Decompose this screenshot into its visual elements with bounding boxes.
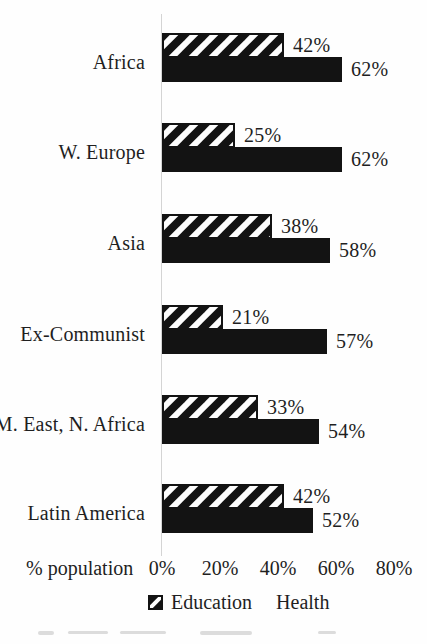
diagonal-hatch-fill bbox=[164, 397, 256, 418]
cut-off-caption-remnant bbox=[38, 631, 336, 635]
education-bar bbox=[162, 214, 272, 239]
diagonal-hatch-fill bbox=[164, 125, 233, 146]
education-bar bbox=[162, 123, 235, 148]
health-bar bbox=[162, 329, 327, 354]
education-value-label: 25% bbox=[244, 123, 281, 148]
x-tick-label: 40% bbox=[260, 556, 297, 580]
health-bar-line: 54% bbox=[162, 419, 365, 444]
education-bar-line: 38% bbox=[162, 214, 318, 239]
education-value-label: 42% bbox=[293, 484, 330, 509]
health-bar bbox=[162, 238, 330, 263]
x-axis-title: % population bbox=[26, 556, 133, 580]
y-axis-line bbox=[161, 14, 162, 556]
diagonal-hatch-fill bbox=[164, 307, 221, 328]
category-label: Africa bbox=[0, 37, 152, 87]
health-bar-line: 62% bbox=[162, 57, 388, 82]
health-bar bbox=[162, 508, 313, 533]
education-bar bbox=[162, 395, 258, 420]
health-value-label: 62% bbox=[351, 57, 388, 82]
category-label: Ex-Communist bbox=[0, 309, 152, 359]
education-bar-line: 33% bbox=[162, 395, 304, 420]
health-value-label: 52% bbox=[322, 508, 359, 533]
category-label: M. East, N. Africa bbox=[0, 399, 152, 449]
x-tick-label: 80% bbox=[376, 556, 413, 580]
diagonal-hatch-fill bbox=[164, 216, 270, 237]
health-value-label: 54% bbox=[328, 419, 365, 444]
chart-row: Ex-Communist 21% 57% bbox=[0, 305, 427, 355]
category-label: W. Europe bbox=[0, 127, 152, 177]
legend-label-health: Health bbox=[276, 591, 329, 614]
education-value-label: 38% bbox=[281, 214, 318, 239]
education-bar-line: 21% bbox=[162, 305, 269, 330]
education-bar-line: 25% bbox=[162, 123, 281, 148]
health-bar-line: 52% bbox=[162, 508, 359, 533]
legend-item-health: Health bbox=[268, 591, 329, 614]
health-bar bbox=[162, 419, 319, 444]
x-tick-label: 20% bbox=[202, 556, 239, 580]
education-bar-line: 42% bbox=[162, 33, 330, 58]
education-value-label: 33% bbox=[267, 395, 304, 420]
health-bar-line: 57% bbox=[162, 329, 373, 354]
education-value-label: 21% bbox=[232, 305, 269, 330]
health-value-label: 58% bbox=[339, 238, 376, 263]
health-value-label: 57% bbox=[336, 329, 373, 354]
x-tick-label: 60% bbox=[318, 556, 355, 580]
education-bar bbox=[162, 484, 284, 509]
education-bar bbox=[162, 305, 223, 330]
education-hatched-swatch-icon bbox=[148, 595, 163, 610]
chart-row: Africa 42% 62% bbox=[0, 33, 427, 83]
chart-row: M. East, N. Africa 33% 54% bbox=[0, 395, 427, 445]
diagonal-hatch-fill bbox=[164, 35, 282, 56]
x-axis: % population 0%20%40%60%80% bbox=[0, 556, 427, 580]
health-bar-line: 58% bbox=[162, 238, 376, 263]
bar-chart-figure: Africa 42% 62% W. Europe bbox=[0, 0, 427, 644]
legend-label-education: Education bbox=[171, 591, 252, 614]
health-bar bbox=[162, 57, 342, 82]
education-value-label: 42% bbox=[293, 33, 330, 58]
chart-row: W. Europe 25% 62% bbox=[0, 123, 427, 173]
education-bar bbox=[162, 33, 284, 58]
diagonal-hatch-fill bbox=[164, 486, 282, 507]
health-bar bbox=[162, 147, 342, 172]
legend: Education Health bbox=[148, 589, 329, 615]
health-bar-line: 62% bbox=[162, 147, 388, 172]
legend-item-education: Education bbox=[148, 591, 252, 614]
category-label: Asia bbox=[0, 218, 152, 268]
chart-row: Asia 38% 58% bbox=[0, 214, 427, 264]
education-bar-line: 42% bbox=[162, 484, 330, 509]
chart-row: Latin America 42% 52% bbox=[0, 484, 427, 534]
category-label: Latin America bbox=[0, 488, 152, 538]
x-tick-label: 0% bbox=[149, 556, 176, 580]
health-value-label: 62% bbox=[351, 147, 388, 172]
